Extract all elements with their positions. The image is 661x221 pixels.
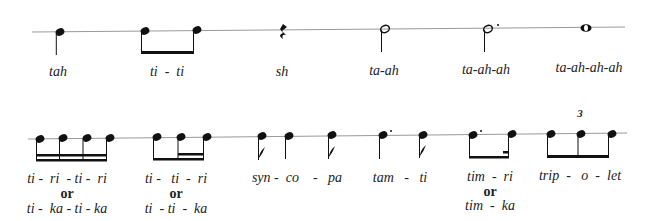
label-quarter: tah: [49, 65, 67, 79]
label-sixteenths: ti - ri - ti - ri: [27, 172, 107, 186]
alt-eighth-two-sixteenths: ti - ti - ka: [145, 202, 208, 216]
beamed-eighths-icon: [139, 25, 202, 54]
eighth-two-sixteenths-icon: [151, 132, 212, 161]
whole-note-icon: [581, 24, 592, 32]
or-eighth-two-sixteenths: or: [169, 187, 182, 201]
quarter-note-icon: [54, 27, 65, 55]
label-eighths: ti - ti: [150, 65, 184, 79]
timri-icon: [467, 129, 517, 159]
label-eighth-two-sixteenths: ti - ti - ri: [145, 172, 207, 186]
label-triplet: trip - o - let: [539, 169, 621, 183]
half-note-icon: [379, 24, 390, 52]
or-timri: or: [483, 185, 496, 199]
label-tamti: tam - ti: [373, 171, 427, 185]
staff-line-2: [28, 133, 627, 139]
tamti-icon: [377, 130, 428, 159]
or-sixteenths: or: [60, 187, 73, 201]
label-dotted-half: ta-ah-ah: [462, 63, 510, 77]
label-timri: tim - ri: [467, 170, 513, 184]
four-sixteenths-icon: [34, 133, 115, 162]
label-whole: ta-ah-ah-ah: [556, 61, 623, 75]
tuplet-number: 3: [577, 107, 583, 119]
alt-sixteenths: ti - ka - ti - ka: [27, 202, 107, 216]
rhythm-notation: [0, 0, 661, 221]
quarter-rest-icon: [280, 24, 287, 39]
label-half: ta-ah: [369, 64, 399, 78]
staff-line-1: [32, 27, 625, 32]
syncopa-icon: [256, 130, 337, 160]
label-syncopa: syn - co - pa: [252, 171, 342, 185]
label-rest: sh: [276, 65, 288, 79]
alt-timri: tim - ka: [465, 199, 515, 213]
